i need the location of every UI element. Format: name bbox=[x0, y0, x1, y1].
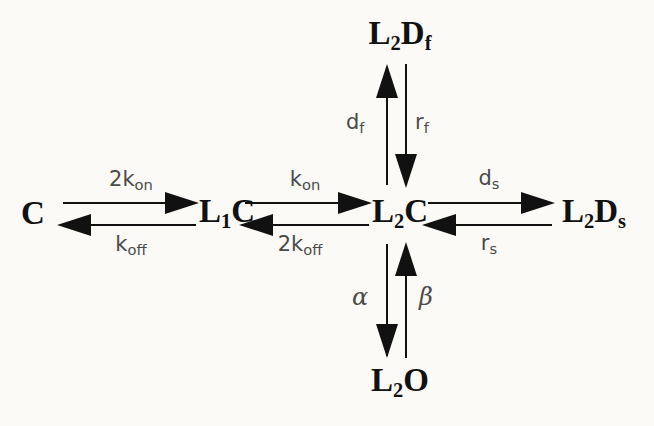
arrow-head-kon-right bbox=[338, 192, 372, 214]
node-L2O: L2O bbox=[371, 364, 429, 400]
rate-label-ds: ds bbox=[479, 168, 500, 191]
rate-label-df: df bbox=[346, 112, 365, 135]
rate-label-2kon: 2kon bbox=[109, 169, 153, 192]
rate-label-kon: kon bbox=[290, 169, 320, 192]
rate-label-beta: β bbox=[419, 285, 433, 309]
arrow-head-alpha-down bbox=[376, 324, 398, 358]
arrow-head-beta-up bbox=[395, 242, 417, 276]
node-C: C bbox=[21, 197, 45, 230]
arrow-head-2kon-right bbox=[165, 192, 199, 214]
rate-label-alpha: α bbox=[352, 285, 368, 309]
arrow-layer bbox=[0, 0, 654, 426]
arrow-pair-C-L1C bbox=[57, 192, 199, 236]
arrow-head-df-up bbox=[376, 64, 398, 98]
node-L2C: L2C bbox=[372, 195, 428, 231]
arrow-pair-L2C-L2Df bbox=[376, 64, 417, 188]
arrow-pair-L2C-L2Ds bbox=[422, 192, 555, 236]
rate-label-2koff: 2koff bbox=[278, 234, 323, 257]
arrow-head-ds-right bbox=[521, 192, 555, 214]
node-L2Ds: L2Ds bbox=[562, 195, 626, 231]
arrow-pair-L2C-L2O bbox=[376, 242, 417, 358]
arrow-head-rf-down bbox=[395, 154, 417, 188]
rate-label-rf: rf bbox=[415, 112, 429, 135]
rate-label-koff: koff bbox=[115, 234, 146, 257]
rate-label-rs: rs bbox=[481, 233, 497, 256]
kinetic-scheme-diagram: C L1C L2C L2Ds L2Df L2O 2kon koff kon 2k… bbox=[0, 0, 654, 426]
node-L1C: L1C bbox=[199, 195, 255, 231]
arrow-head-koff-left bbox=[57, 214, 91, 236]
arrow-pair-L1C-L2C bbox=[239, 192, 372, 236]
node-L2Df: L2Df bbox=[369, 17, 432, 53]
